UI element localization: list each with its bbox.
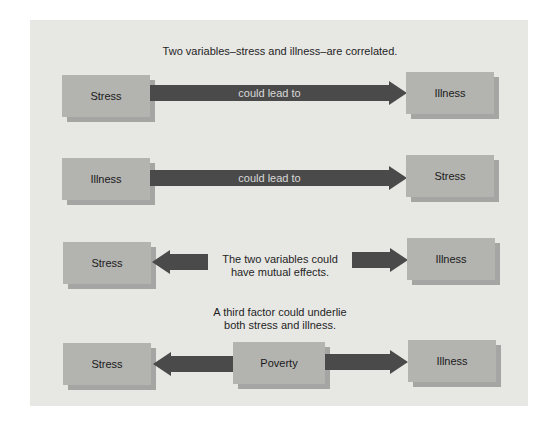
box-label: Illness [406, 72, 494, 114]
row4-arrow-left [153, 352, 234, 376]
box-label: Poverty [233, 342, 325, 384]
row3-arrow-left [152, 250, 208, 274]
row3-stress-box: Stress [63, 242, 151, 284]
box-label: Stress [63, 343, 151, 385]
box-label: Stress [406, 155, 494, 197]
row4-stress-box: Stress [63, 343, 151, 385]
center-text-line2: have mutual effects. [205, 266, 355, 279]
row3-center-text: The two variables could have mutual effe… [205, 253, 355, 279]
caption-line1: A third factor could underlie [185, 306, 375, 319]
row4-arrow-right [325, 350, 408, 374]
arrow-label: could lead to [150, 81, 389, 105]
row1-caption: Two variables–stress and illness–are cor… [130, 45, 430, 58]
row1-arrow-right: could lead to [150, 81, 407, 105]
box-label: Illness [407, 238, 495, 280]
row4-caption: A third factor could underlie both stres… [185, 306, 375, 332]
box-label: Illness [62, 158, 150, 200]
arrow-label: could lead to [150, 166, 389, 190]
box-label: Stress [63, 242, 151, 284]
row3-illness-box: Illness [407, 238, 495, 280]
row4-poverty-box: Poverty [233, 342, 325, 384]
row1-stress-box: Stress [62, 75, 150, 117]
arrow-right-icon [352, 248, 408, 272]
box-label: Stress [62, 75, 150, 117]
row3-arrow-right [352, 248, 408, 272]
box-label: Illness [408, 340, 496, 382]
arrow-left-icon [153, 352, 234, 376]
center-text-line1: The two variables could [205, 253, 355, 266]
row2-stress-box: Stress [406, 155, 494, 197]
row2-illness-box: Illness [62, 158, 150, 200]
arrow-right-icon [325, 350, 408, 374]
row1-illness-box: Illness [406, 72, 494, 114]
caption-line2: both stress and illness. [185, 319, 375, 332]
arrow-left-icon [152, 250, 208, 274]
row4-illness-box: Illness [408, 340, 496, 382]
row2-arrow-right: could lead to [150, 166, 407, 190]
